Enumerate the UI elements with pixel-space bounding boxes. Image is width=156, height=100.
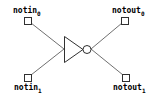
pin-index: 0 [141, 10, 145, 17]
wire-notin0 [31, 23, 64, 49]
wire-notout1 [91, 49, 123, 75]
pin-name: notout [112, 6, 141, 15]
label-notin1: notin1 [14, 84, 42, 95]
wire-notout0 [91, 23, 122, 49]
inverter-bubble-icon [83, 46, 91, 54]
wire-notin1 [31, 49, 64, 75]
pin-notin1[interactable] [25, 75, 32, 82]
pin-index: 1 [38, 87, 42, 94]
pin-name: notout [113, 83, 142, 92]
pin-name: notin [13, 6, 37, 15]
label-notout0: notout0 [112, 7, 145, 18]
label-notout1: notout1 [113, 84, 146, 95]
pin-notout1[interactable] [123, 75, 130, 82]
pin-notout0[interactable] [122, 18, 129, 25]
inverter-triangle-icon [65, 37, 84, 63]
label-notin0: notin0 [13, 7, 41, 18]
pin-notin0[interactable] [25, 18, 32, 25]
pin-index: 1 [142, 87, 146, 94]
pin-name: notin [14, 83, 38, 92]
pin-index: 0 [37, 10, 41, 17]
